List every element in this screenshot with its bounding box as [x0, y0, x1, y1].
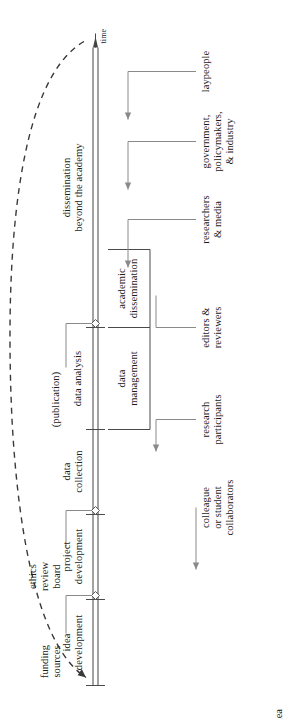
figure-caption-text: Life Cycle of a Research Idea — [273, 709, 284, 719]
axis-time-label: time — [100, 28, 109, 43]
arrow-editors-reviewers — [156, 295, 196, 327]
stage-label-dissemination-beyond-the-academy: dissemination beyond the academy — [61, 143, 85, 231]
timeline-axis — [93, 33, 98, 685]
arrow-research-participants — [156, 419, 196, 451]
bracket-label-academic-dissemination: academic dissemination — [116, 258, 140, 318]
actor-label-researchers-and-media: researchers & media — [200, 195, 224, 243]
stage-label-project-development: project development — [61, 528, 85, 583]
actor-label-laypeople: laypeople — [200, 50, 212, 92]
diagram-stage: idea development project development dat… — [0, 0, 290, 719]
stage-label-idea-development: idea development — [61, 614, 85, 669]
diagram-linework — [0, 0, 290, 719]
stage-label-data-analysis: data analysis — [72, 350, 84, 405]
arrow-government-policymakers-industry — [128, 141, 196, 189]
figure-caption: FIGURE 1.3Life Cycle of a Research Idea — [273, 709, 284, 719]
bracket-label-data-management: data management — [116, 351, 140, 406]
stage-label-data-collection: data collection — [61, 450, 85, 492]
actor-label-colleague-or-student-collaborators: colleague or student collaborators — [200, 479, 235, 535]
milestone-label-funding-sources: funding sources — [39, 644, 63, 677]
actor-label-government-policymakers-industry: government, policymakers, & industry — [200, 111, 235, 172]
actor-label-research-participants: research participants — [200, 394, 224, 444]
milestone-label-publication: (publication) — [50, 371, 62, 427]
figure-life-cycle-of-a-research-idea: idea development project development dat… — [0, 0, 290, 719]
arrow-laypeople — [128, 71, 196, 119]
milestone-label-ethics-review-board: ethics review board — [27, 561, 62, 590]
stakeholder-arrows — [125, 71, 199, 569]
actor-label-editors-and-reviewers: editors & reviewers — [200, 306, 224, 348]
